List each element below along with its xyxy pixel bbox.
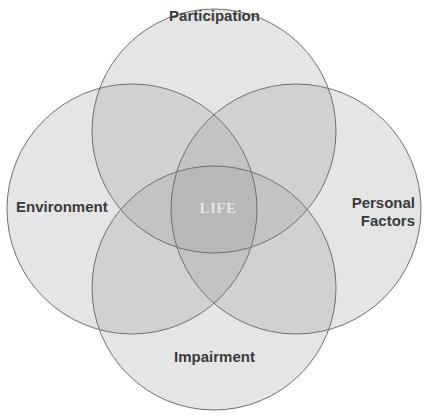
participation-label: Participation bbox=[0, 7, 429, 25]
impairment-label: Impairment bbox=[0, 348, 429, 366]
life-center-label: LIFE bbox=[0, 200, 429, 217]
